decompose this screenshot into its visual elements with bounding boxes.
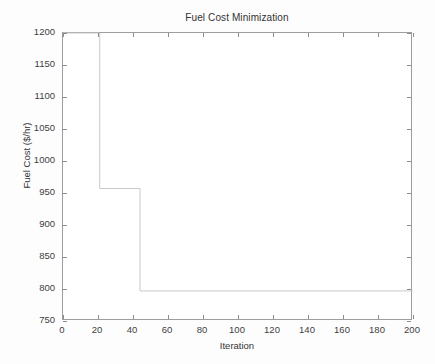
y-axis-tick-left [63,321,67,322]
x-axis-tick-label: 60 [147,324,187,335]
x-axis-title: Iteration [62,340,412,351]
x-axis-tick-label: 140 [287,324,327,335]
figure-canvas: Fuel Cost Minimization Fuel Cost ($/hr) … [0,0,435,364]
y-axis-tick-right [407,225,411,226]
series-line [63,33,413,321]
x-axis-tick-label: 200 [392,324,432,335]
x-axis-tick-bottom [308,315,309,319]
y-axis-tick-right [407,321,411,322]
x-axis-tick-label: 20 [77,324,117,335]
y-axis-tick-label: 850 [15,250,55,261]
x-axis-tick-bottom [378,315,379,319]
y-axis-tick-right [407,193,411,194]
x-axis-tick-label: 120 [252,324,292,335]
x-axis-tick-bottom [63,315,64,319]
y-axis-tick-label: 900 [15,218,55,229]
page-title: Fuel Cost Minimization [62,12,412,23]
x-axis-tick-top [238,33,239,37]
x-axis-tick-bottom [133,315,134,319]
y-axis-tick-label: 1100 [15,90,55,101]
x-axis-tick-bottom [203,315,204,319]
y-axis-tick-label: 800 [15,282,55,293]
y-axis-tick-label: 1200 [15,26,55,37]
x-axis-tick-label: 100 [217,324,257,335]
x-axis-tick-top [168,33,169,37]
y-axis-tick-left [63,97,67,98]
x-axis-tick-top [203,33,204,37]
x-axis-tick-label: 160 [322,324,362,335]
x-axis-tick-top [273,33,274,37]
y-axis-tick-right [407,65,411,66]
x-axis-tick-bottom [413,315,414,319]
plot-area [62,32,412,320]
x-axis-tick-bottom [273,315,274,319]
x-axis-tick-top [413,33,414,37]
fuel-cost-step-line [63,33,413,291]
y-axis-tick-right [407,257,411,258]
y-axis-tick-right [407,33,411,34]
x-axis-tick-label: 180 [357,324,397,335]
y-axis-tick-left [63,225,67,226]
y-axis-tick-right [407,161,411,162]
y-axis-tick-left [63,193,67,194]
y-axis-tick-left [63,161,67,162]
x-axis-tick-top [343,33,344,37]
y-axis-tick-left [63,129,67,130]
x-axis-tick-label: 0 [42,324,82,335]
y-axis-tick-label: 1050 [15,122,55,133]
y-axis-tick-right [407,129,411,130]
y-axis-tick-left [63,289,67,290]
y-axis-tick-right [407,97,411,98]
x-axis-tick-bottom [168,315,169,319]
y-axis-tick-label: 1150 [15,58,55,69]
x-axis-tick-bottom [343,315,344,319]
x-axis-tick-top [133,33,134,37]
x-axis-tick-bottom [238,315,239,319]
y-axis-tick-label: 950 [15,186,55,197]
x-axis-tick-top [63,33,64,37]
x-axis-tick-top [378,33,379,37]
x-axis-tick-top [308,33,309,37]
x-axis-tick-label: 80 [182,324,222,335]
x-axis-tick-bottom [98,315,99,319]
y-axis-tick-right [407,289,411,290]
y-axis-tick-left [63,257,67,258]
x-axis-tick-label: 40 [112,324,152,335]
y-axis-tick-left [63,65,67,66]
y-axis-tick-label: 1000 [15,154,55,165]
x-axis-tick-top [98,33,99,37]
